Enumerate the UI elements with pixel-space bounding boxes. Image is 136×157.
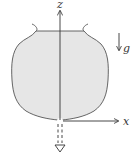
gravity-label: g	[123, 42, 130, 55]
outflow-arrow-icon	[55, 145, 65, 152]
vessel-lip-left	[32, 24, 37, 31]
z-axis-label: z	[56, 0, 63, 11]
vessel-lip-right	[83, 24, 88, 31]
x-axis-label: x	[123, 115, 130, 128]
vessel-diagram: z x g	[0, 0, 136, 157]
